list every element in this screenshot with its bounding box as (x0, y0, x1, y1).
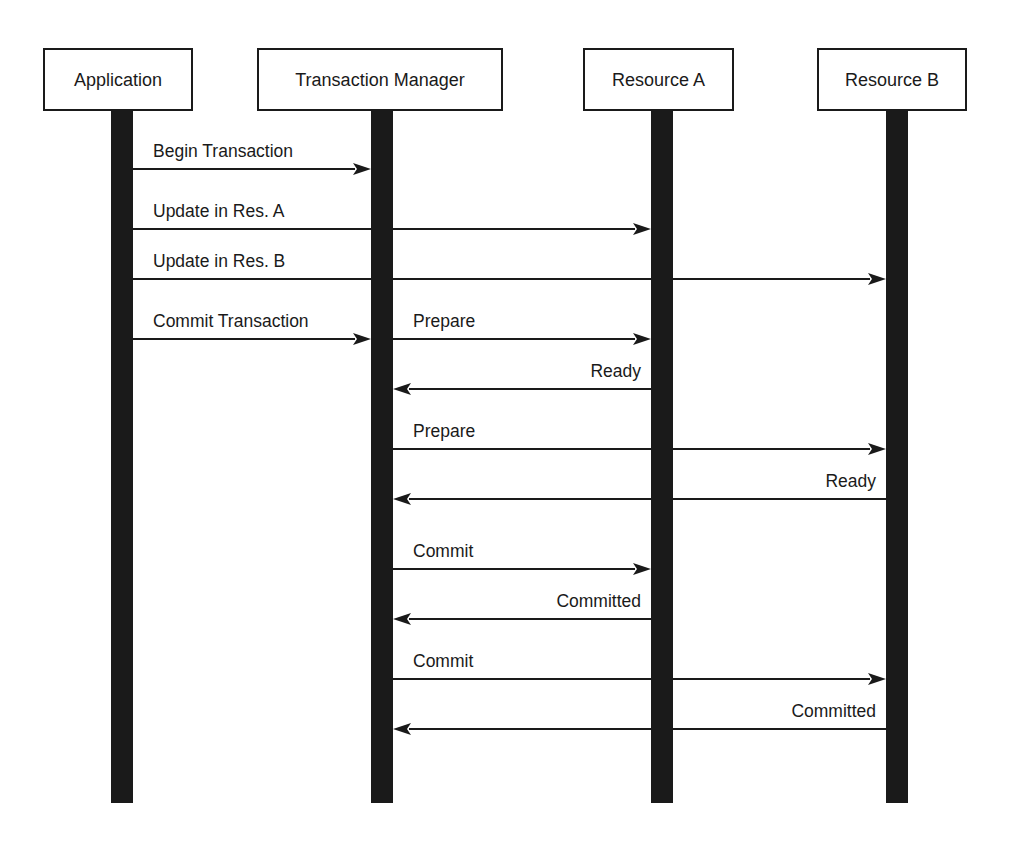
arrow-right-icon (868, 273, 886, 285)
arrow-left-icon (393, 613, 411, 625)
message-12: Committed (393, 701, 886, 735)
message-label: Update in Res. A (153, 201, 285, 221)
arrow-right-icon (633, 223, 651, 235)
message-9: Commit (393, 541, 651, 575)
arrow-left-icon (393, 383, 411, 395)
actor-label: Transaction Manager (295, 70, 464, 90)
message-7: Prepare (393, 421, 886, 455)
lifeline-transaction-manager (371, 110, 393, 803)
actor-application: Application (44, 49, 192, 110)
arrow-right-icon (868, 443, 886, 455)
actor-transaction-manager: Transaction Manager (258, 49, 502, 110)
lifeline-resource-b (886, 110, 908, 803)
message-4: Commit Transaction (133, 311, 371, 345)
message-label: Committed (556, 591, 641, 611)
actor-label: Resource B (845, 70, 939, 90)
message-label: Prepare (413, 311, 475, 331)
message-label: Update in Res. B (153, 251, 285, 271)
message-label: Committed (791, 701, 876, 721)
lifeline-resource-a (651, 110, 673, 803)
message-6: Ready (393, 361, 651, 395)
arrow-left-icon (393, 493, 411, 505)
message-label: Commit Transaction (153, 311, 309, 331)
arrow-right-icon (633, 333, 651, 345)
sequence-diagram: ApplicationTransaction ManagerResource A… (0, 0, 1014, 848)
message-label: Ready (590, 361, 641, 381)
arrow-right-icon (353, 163, 371, 175)
message-label: Prepare (413, 421, 475, 441)
message-3: Update in Res. B (133, 251, 886, 285)
message-label: Ready (825, 471, 876, 491)
actor-label: Resource A (612, 70, 705, 90)
actor-resource-b: Resource B (818, 49, 966, 110)
messages: Begin TransactionUpdate in Res. AUpdate … (133, 141, 886, 735)
message-label: Commit (413, 651, 473, 671)
actors: ApplicationTransaction ManagerResource A… (44, 49, 966, 110)
actor-label: Application (74, 70, 162, 90)
arrow-left-icon (393, 723, 411, 735)
message-1: Begin Transaction (133, 141, 371, 175)
arrow-right-icon (353, 333, 371, 345)
actor-resource-a: Resource A (584, 49, 733, 110)
lifeline-application (111, 110, 133, 803)
arrow-right-icon (633, 563, 651, 575)
message-label: Commit (413, 541, 473, 561)
arrow-right-icon (868, 673, 886, 685)
message-11: Commit (393, 651, 886, 685)
message-5: Prepare (393, 311, 651, 345)
message-8: Ready (393, 471, 886, 505)
message-10: Committed (393, 591, 651, 625)
message-label: Begin Transaction (153, 141, 293, 161)
